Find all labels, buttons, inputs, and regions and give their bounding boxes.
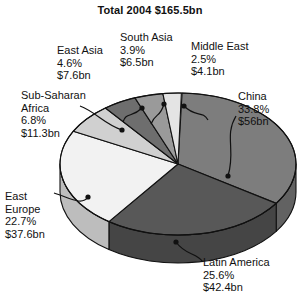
slice-label-name: Latin America <box>203 256 270 269</box>
slice-label-percent: 4.6% <box>57 57 103 70</box>
slice-label-name: Middle East <box>191 40 248 53</box>
slice-label-name: South Asia <box>120 31 173 44</box>
slice-label-percent: 25.6% <box>203 269 270 282</box>
leader-dot-south-asia <box>161 101 166 106</box>
slice-label-value: $42.4bn <box>203 281 270 294</box>
slice-label-east-asia: East Asia 4.6% $7.6bn <box>57 44 103 82</box>
slice-label-percent: 6.8% <box>21 114 86 127</box>
slice-label-sub-saharan-africa: Sub-Saharan Africa 6.8% $11.3bn <box>21 89 86 139</box>
slice-label-value: $6.5bn <box>120 56 173 69</box>
slice-label-latin-america: Latin America 25.6% $42.4bn <box>203 256 270 294</box>
slice-label-percent: 33.8% <box>238 103 269 116</box>
slice-label-percent: 2.5% <box>191 53 248 66</box>
leader-dot-china <box>225 173 230 178</box>
leader-dot-middle-east <box>181 103 186 108</box>
slice-label-name-line2: Europe <box>5 203 45 216</box>
leader-dot-east-europe <box>85 194 90 199</box>
slice-label-value: $11.3bn <box>21 127 86 140</box>
slice-label-name-line2: Africa <box>21 102 86 115</box>
slice-label-east-europe: East Europe 22.7% $37.6bn <box>5 190 45 240</box>
slice-label-percent: 22.7% <box>5 215 45 228</box>
leader-dot-latin-america <box>173 239 178 244</box>
slice-label-value: $37.6bn <box>5 228 45 241</box>
leader-dot-east-asia <box>139 105 144 110</box>
slice-label-china: China 33.8% $56bn <box>238 90 269 128</box>
slice-label-south-asia: South Asia 3.9% $6.5bn <box>120 31 173 69</box>
slice-label-middle-east: Middle East 2.5% $4.1bn <box>191 40 248 78</box>
slice-label-name: China <box>238 90 269 103</box>
slice-label-name-line1: East <box>5 190 45 203</box>
slice-label-value: $56bn <box>238 115 269 128</box>
leader-dot-sub-saharan <box>119 127 124 132</box>
slice-label-value: $4.1bn <box>191 65 248 78</box>
slice-label-name: East Asia <box>57 44 103 57</box>
slice-label-value: $7.6bn <box>57 69 103 82</box>
slice-label-name-line1: Sub-Saharan <box>21 89 86 102</box>
slice-label-percent: 3.9% <box>120 44 173 57</box>
chart-canvas: Total 2004 $165.5bn East Asia 4.6% $7.6b… <box>0 0 300 303</box>
